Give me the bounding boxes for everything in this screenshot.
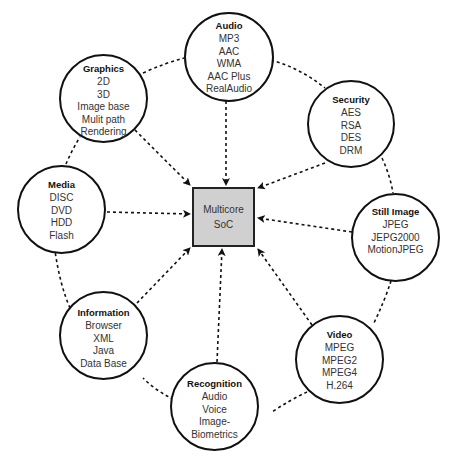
node-title: Information bbox=[61, 307, 146, 318]
node-title: Media bbox=[19, 179, 104, 190]
node-media: Media DISC DVD HDD Flash bbox=[17, 165, 106, 254]
node-video: Video MPEG MPEG2 MPEG4 H.264 bbox=[295, 315, 384, 404]
node-item: JPEG bbox=[353, 219, 438, 232]
ring-information-media bbox=[55, 251, 70, 308]
node-item: AAC Plus bbox=[186, 71, 272, 84]
node-item: MP3 bbox=[186, 33, 272, 46]
node-graphics: Graphics 2D 3D Image base Mulit path Ren… bbox=[59, 54, 148, 143]
node-title: Security bbox=[309, 94, 393, 105]
node-item: JEPG2000 bbox=[353, 232, 438, 245]
node-item: WMA bbox=[186, 58, 272, 71]
node-item: DISC bbox=[19, 192, 104, 205]
node-item: Rendering bbox=[61, 126, 146, 139]
node-item: HDD bbox=[19, 217, 104, 230]
node-item: AAC bbox=[186, 46, 272, 59]
node-audio: Audio MP3 AAC WMA AAC Plus RealAudio bbox=[184, 12, 274, 102]
node-item: Image- bbox=[172, 416, 257, 429]
node-item: Flash bbox=[19, 230, 104, 243]
node-item: Audio bbox=[172, 391, 257, 404]
node-item: DES bbox=[309, 132, 393, 145]
node-item: Image base bbox=[61, 101, 146, 114]
ring-graphics-audio bbox=[143, 58, 184, 73]
node-title: Video bbox=[297, 329, 382, 340]
ring-security-still bbox=[382, 158, 393, 193]
node-still-image: Still Image JPEG JEPG2000 MotionJPEG bbox=[351, 193, 440, 282]
node-item: 2D bbox=[61, 76, 146, 89]
node-item: MPEG bbox=[297, 342, 382, 355]
node-item: Voice bbox=[172, 404, 257, 417]
node-recognition: Recognition Audio Voice Image- Biometric… bbox=[170, 362, 259, 451]
node-item: XML bbox=[61, 333, 146, 346]
node-title: Audio bbox=[186, 20, 272, 31]
soc-label-line2: SoC bbox=[214, 217, 233, 232]
node-item: Browser bbox=[61, 320, 146, 333]
node-item: Data Base bbox=[61, 358, 146, 371]
node-item: Mulit path bbox=[61, 114, 146, 127]
node-item: MotionJPEG bbox=[353, 244, 438, 257]
ring-still-video bbox=[373, 281, 391, 325]
ring-media-graphics bbox=[66, 137, 80, 164]
node-title: Still Image bbox=[353, 206, 438, 217]
node-item: DVD bbox=[19, 205, 104, 218]
node-item: Biometrics bbox=[172, 429, 257, 442]
node-item: Java bbox=[61, 345, 146, 358]
node-item: RSA bbox=[309, 120, 393, 133]
node-security: Security AES RSA DES DRM bbox=[307, 80, 395, 168]
node-item: H.264 bbox=[297, 380, 382, 393]
node-item: MPEG4 bbox=[297, 367, 382, 380]
soc-label-line1: Multicore bbox=[203, 202, 244, 217]
node-item: AES bbox=[309, 107, 393, 120]
node-item: RealAudio bbox=[186, 83, 272, 96]
ring-video-recognition bbox=[272, 392, 307, 412]
ring-audio-security bbox=[271, 60, 325, 88]
node-item: DRM bbox=[309, 145, 393, 158]
node-title: Recognition bbox=[172, 378, 257, 389]
node-item: MPEG2 bbox=[297, 355, 382, 368]
multicore-soc-box: Multicore SoC bbox=[192, 187, 255, 247]
node-information: Information Browser XML Java Data Base bbox=[59, 291, 148, 380]
node-item: 3D bbox=[61, 89, 146, 102]
node-title: Graphics bbox=[61, 63, 146, 74]
